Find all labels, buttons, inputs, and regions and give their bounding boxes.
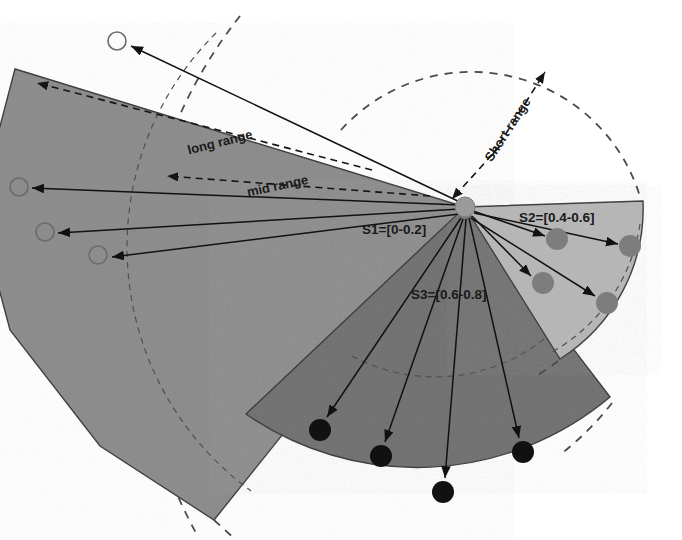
short-range-arc bbox=[341, 72, 641, 200]
target-dark bbox=[370, 445, 392, 467]
long-range-arc-tail bbox=[214, 520, 236, 540]
target-medium bbox=[546, 228, 568, 250]
sector-s1-label: S1=[0-0.2] bbox=[362, 222, 426, 237]
target-hollow bbox=[108, 32, 126, 50]
target-medium bbox=[596, 292, 618, 314]
sector-range-diagram: long range mid range Short range bbox=[0, 0, 682, 540]
center-hub bbox=[455, 197, 475, 217]
target-dark bbox=[309, 419, 331, 441]
target-medium bbox=[619, 235, 641, 257]
diagram-canvas: long range mid range Short range bbox=[0, 0, 682, 540]
sector-s3-label: S3=[0.6-0.8] bbox=[411, 287, 486, 302]
short-range-label: Short range bbox=[481, 95, 533, 164]
short-range-measure: Short range bbox=[452, 72, 545, 199]
target-dark bbox=[432, 481, 454, 503]
target-medium bbox=[532, 272, 554, 294]
sector-s2-label: S2=[0.4-0.6] bbox=[519, 210, 594, 225]
target-dark bbox=[512, 441, 534, 463]
